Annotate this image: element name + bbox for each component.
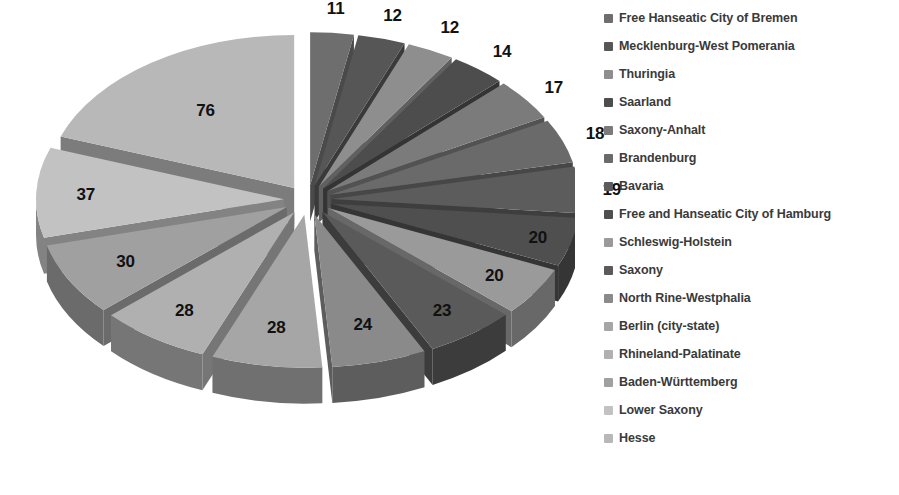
pie-slice-value-label: 14 (493, 43, 512, 60)
legend-swatch-icon (604, 210, 613, 219)
legend-item[interactable]: Thuringia (604, 60, 899, 88)
legend-item[interactable]: Saarland (604, 88, 899, 116)
pie-slice-value-label: 17 (544, 78, 563, 95)
legend-item[interactable]: Saxony-Anhalt (604, 116, 899, 144)
legend-swatch-icon (604, 98, 613, 107)
pie-slice-value-label: 30 (116, 253, 135, 270)
legend-item-label: Baden-Württemberg (619, 375, 737, 389)
pie-slice-value-label: 12 (441, 19, 460, 36)
pie-slice-value-label: 76 (196, 102, 215, 119)
pie-slice-value-label: 28 (267, 318, 286, 335)
legend-item-label: Hesse (619, 431, 655, 445)
legend-item-label: Thuringia (619, 67, 675, 81)
pie-slice-value-label: 12 (383, 6, 402, 23)
legend-item-label: Free Hanseatic City of Bremen (619, 11, 797, 25)
pie-slice-value-label: 20 (485, 266, 504, 283)
legend-item-label: North Rine-Westphalia (619, 291, 751, 305)
legend-item[interactable]: Free Hanseatic City of Bremen (604, 4, 899, 32)
legend-swatch-icon (604, 322, 613, 331)
legend-item[interactable]: Lower Saxony (604, 396, 899, 424)
chart-plot-area: 11121214171819202023242828303776 (0, 0, 575, 495)
pie-chart-figure: 11121214171819202023242828303776 Free Ha… (0, 0, 899, 495)
legend-item-label: Saxony (619, 263, 663, 277)
legend-swatch-icon (604, 294, 613, 303)
legend-item[interactable]: Schleswig-Holstein (604, 228, 899, 256)
legend-item[interactable]: Saxony (604, 256, 899, 284)
legend-item[interactable]: Bavaria (604, 172, 899, 200)
legend-item[interactable]: Baden-Württemberg (604, 368, 899, 396)
legend-item[interactable]: Mecklenburg-West Pomerania (604, 32, 899, 60)
legend-item[interactable]: Hesse (604, 424, 899, 452)
legend-item-label: Lower Saxony (619, 403, 703, 417)
legend-item-label: Saxony-Anhalt (619, 123, 705, 137)
pie-slice-value-label: 24 (353, 315, 372, 332)
legend-swatch-icon (604, 42, 613, 51)
legend-item-label: Free and Hanseatic City of Hamburg (619, 207, 831, 221)
pie-slice-value-label: 28 (175, 302, 194, 319)
legend-item-label: Saarland (619, 95, 671, 109)
legend-item-label: Rhineland-Palatinate (619, 347, 741, 361)
pie-slice-value-label: 23 (433, 301, 452, 318)
legend-swatch-icon (604, 238, 613, 247)
legend-item-label: Mecklenburg-West Pomerania (619, 39, 795, 53)
legend-item[interactable]: Berlin (city-state) (604, 312, 899, 340)
legend-item[interactable]: Free and Hanseatic City of Hamburg (604, 200, 899, 228)
pie-slice-value-label: 37 (77, 185, 96, 202)
legend-item-label: Bavaria (619, 179, 663, 193)
legend-item[interactable]: Rhineland-Palatinate (604, 340, 899, 368)
legend-swatch-icon (604, 406, 613, 415)
legend-item-label: Brandenburg (619, 151, 696, 165)
legend-item[interactable]: North Rine-Westphalia (604, 284, 899, 312)
pie-slice-value-label: 18 (586, 125, 605, 142)
chart-legend: Free Hanseatic City of BremenMecklenburg… (604, 4, 899, 452)
legend-swatch-icon (604, 126, 613, 135)
legend-item[interactable]: Brandenburg (604, 144, 899, 172)
legend-swatch-icon (604, 182, 613, 191)
legend-swatch-icon (604, 378, 613, 387)
legend-swatch-icon (604, 154, 613, 163)
legend-swatch-icon (604, 266, 613, 275)
exploded-3d-pie-svg (0, 0, 575, 495)
legend-swatch-icon (604, 70, 613, 79)
pie-slice-value-label: 11 (327, 0, 345, 17)
pie-slice-value-label: 20 (528, 228, 547, 245)
legend-item-label: Schleswig-Holstein (619, 235, 732, 249)
legend-swatch-icon (604, 350, 613, 359)
legend-item-label: Berlin (city-state) (619, 319, 719, 333)
legend-swatch-icon (604, 434, 613, 443)
legend-swatch-icon (604, 14, 613, 23)
